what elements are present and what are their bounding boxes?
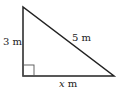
right-triangle — [23, 7, 114, 76]
right-angle-marker — [23, 65, 34, 76]
triangle-diagram: 3 m 5 m x m — [0, 0, 119, 93]
base-unit: m — [65, 78, 78, 89]
vertical-side-label: 3 m — [3, 36, 23, 47]
base-label: x m — [59, 78, 78, 89]
hypotenuse-label: 5 m — [72, 32, 92, 43]
